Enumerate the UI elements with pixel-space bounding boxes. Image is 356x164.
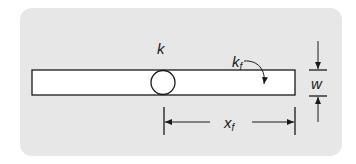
label-w: w xyxy=(311,75,323,92)
diagram-svg: k kf xf w xyxy=(0,0,356,164)
diagram-canvas: k kf xf w xyxy=(0,0,356,164)
hole-circle xyxy=(151,71,175,95)
